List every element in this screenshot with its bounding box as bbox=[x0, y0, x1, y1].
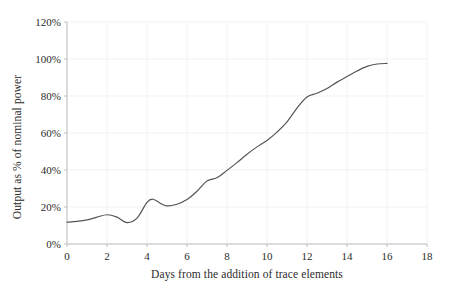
y-tick-label: 80% bbox=[20, 90, 61, 102]
y-tick-label: 120% bbox=[20, 16, 61, 28]
tick-marks bbox=[64, 22, 427, 247]
x-tick-label: 6 bbox=[184, 250, 190, 262]
x-tick-label: 12 bbox=[302, 250, 313, 262]
x-tick-label: 16 bbox=[382, 250, 393, 262]
x-axis-title: Days from the addition of trace elements bbox=[67, 268, 427, 280]
x-tick-label: 0 bbox=[64, 250, 70, 262]
grid-lines bbox=[67, 22, 427, 244]
y-tick-label: 20% bbox=[20, 201, 61, 213]
y-tick-label: 60% bbox=[20, 127, 61, 139]
y-tick-label: 0% bbox=[20, 238, 61, 250]
x-tick-label: 10 bbox=[262, 250, 273, 262]
y-tick-label: 40% bbox=[20, 164, 61, 176]
x-tick-label: 14 bbox=[342, 250, 353, 262]
x-tick-label: 4 bbox=[144, 250, 150, 262]
line-chart: 0%20%40%60%80%100%120% 024681012141618 O… bbox=[0, 0, 449, 294]
x-tick-label: 8 bbox=[224, 250, 230, 262]
y-tick-label: 100% bbox=[20, 53, 61, 65]
x-tick-label: 18 bbox=[422, 250, 433, 262]
x-tick-label: 2 bbox=[104, 250, 110, 262]
